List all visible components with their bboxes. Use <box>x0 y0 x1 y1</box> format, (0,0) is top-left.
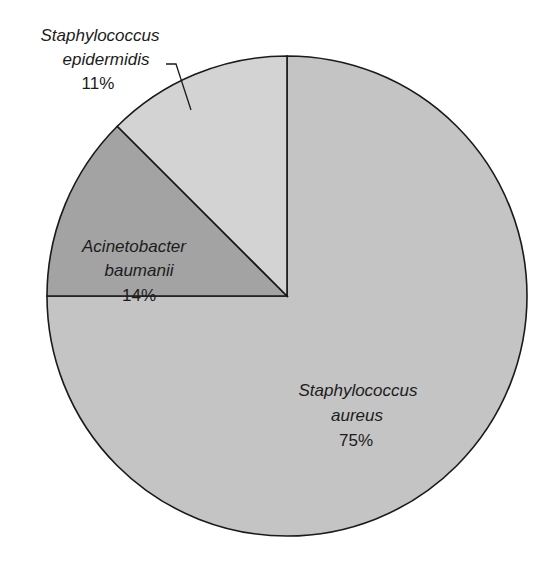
acinetobacter-name-line2: baumanii <box>105 261 175 280</box>
aureus-percent: 75% <box>339 431 373 450</box>
epidermidis-percent: 11% <box>82 74 115 93</box>
acinetobacter-name-line1: Acinetobacter <box>81 237 187 256</box>
pie-chart-svg: Staphylococcus epidermidis 11% Acinetoba… <box>0 0 556 582</box>
epidermidis-name-line2: epidermidis <box>63 50 150 69</box>
label-staphylococcus-epidermidis: Staphylococcus epidermidis 11% <box>40 26 160 93</box>
epidermidis-name-line1: Staphylococcus <box>40 26 160 45</box>
pie-chart: Staphylococcus epidermidis 11% Acinetoba… <box>0 0 556 582</box>
acinetobacter-percent: 14% <box>122 286 156 305</box>
aureus-name-line2: aureus <box>331 406 383 425</box>
aureus-name-line1: Staphylococcus <box>298 381 418 400</box>
